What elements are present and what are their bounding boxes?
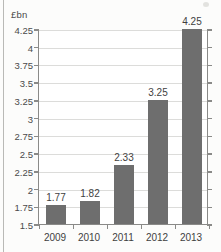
y-axis-unit-label: £bn — [11, 9, 27, 20]
x-axis-tick-label: 2013 — [180, 232, 202, 243]
y-axis-tick-label: 1.5 — [20, 220, 33, 231]
bar-slot: 4.25 — [182, 30, 202, 224]
y-axis-tick-mark — [34, 47, 39, 48]
y-axis-tick-label: 2.5 — [20, 149, 33, 160]
x-axis-tick-mark — [73, 224, 74, 229]
y-axis-tick-mark — [34, 153, 39, 154]
x-axis-tick-label: 2009 — [44, 232, 66, 243]
bar[interactable] — [46, 205, 66, 224]
y-axis-tick-labels: 4.2543.753.53.2532.752.52.2521.751.5 — [0, 30, 33, 225]
x-axis-tick-label: 2010 — [78, 232, 100, 243]
x-axis-tick-mark — [39, 224, 40, 229]
y-axis-tick-label: 1.75 — [15, 202, 34, 213]
y-axis-tick-label: 2 — [28, 184, 33, 195]
y-axis-tick-mark — [207, 47, 212, 48]
y-axis-tick-mark — [34, 136, 39, 137]
bar-value-label: 1.82 — [80, 188, 99, 199]
y-axis-tick-label: 3 — [28, 113, 33, 124]
bar-slot: 1.82 — [80, 30, 100, 224]
bar[interactable] — [182, 29, 202, 224]
y-axis-tick-label: 2.75 — [15, 131, 34, 142]
x-axis-tick-label: 2011 — [112, 232, 134, 243]
bars-group: 1.771.822.333.254.25 — [39, 30, 207, 224]
y-axis-tick-mark — [207, 118, 212, 119]
bar-slot: 1.77 — [46, 30, 66, 224]
bar-slot: 3.25 — [148, 30, 168, 224]
y-axis-tick-mark — [34, 65, 39, 66]
bar[interactable] — [80, 201, 100, 224]
bar-value-label: 2.33 — [114, 152, 133, 163]
y-axis-tick-mark — [207, 65, 212, 66]
y-axis-tick-label: 2.25 — [15, 166, 34, 177]
y-axis-tick-label: 4 — [28, 42, 33, 53]
y-axis-tick-label: 3.5 — [20, 78, 33, 89]
y-axis-tick-mark — [34, 29, 39, 30]
y-axis-tick-label: 3.25 — [15, 95, 34, 106]
y-axis-tick-mark — [207, 153, 212, 154]
bar-slot: 2.33 — [114, 30, 134, 224]
x-axis-tick-label: 2012 — [146, 232, 168, 243]
y-axis-tick-mark — [207, 29, 212, 30]
y-axis-tick-mark — [207, 82, 212, 83]
x-axis-tick-mark — [209, 224, 210, 229]
bar-value-label: 4.25 — [182, 16, 201, 27]
y-axis-tick-mark — [34, 189, 39, 190]
y-axis-tick-mark — [34, 82, 39, 83]
y-axis-tick-mark — [207, 207, 212, 208]
y-axis-tick-mark — [207, 136, 212, 137]
bar-chart-figure: £bn 4.2543.753.53.2532.752.52.2521.751.5… — [0, 0, 221, 252]
y-axis-tick-mark — [207, 100, 212, 101]
bar[interactable] — [148, 100, 168, 224]
bar-value-label: 3.25 — [148, 87, 167, 98]
y-axis-tick-mark — [34, 118, 39, 119]
y-axis-tick-mark — [207, 189, 212, 190]
y-axis-tick-mark — [34, 100, 39, 101]
x-axis-tick-mark — [107, 224, 108, 229]
scan-artifact-speck — [203, 2, 209, 7]
y-axis-tick-mark — [34, 207, 39, 208]
y-axis-tick-label: 3.75 — [15, 60, 34, 71]
y-axis-tick-mark — [34, 171, 39, 172]
x-axis-tick-mark — [141, 224, 142, 229]
bar[interactable] — [114, 165, 134, 224]
y-axis-tick-label: 4.25 — [15, 25, 34, 36]
y-axis-tick-mark — [207, 171, 212, 172]
x-axis-tick-mark — [175, 224, 176, 229]
x-axis-tick-labels: 20092010201120122013 — [38, 232, 208, 248]
plot-area: 1.771.822.333.254.25 — [38, 30, 208, 225]
bar-value-label: 1.77 — [46, 192, 65, 203]
